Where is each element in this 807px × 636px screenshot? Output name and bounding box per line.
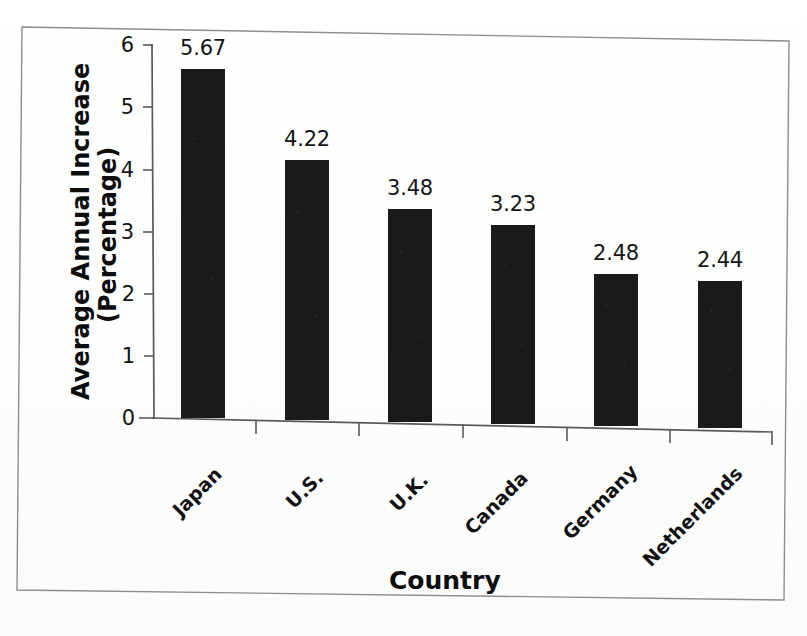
- ytick-label-0: 0: [101, 406, 135, 430]
- bar-value-label-us: 4.22: [257, 127, 357, 151]
- xtick-label-netherlands: Netherlands: [638, 462, 746, 570]
- y-axis-title: Average Annual Increase (Percentage): [68, 70, 122, 400]
- bar-value-label-uk: 3.48: [360, 176, 460, 200]
- bar-uk: [388, 209, 432, 422]
- bar-netherlands: [698, 281, 742, 428]
- bar-value-label-japan: 5.67: [153, 36, 253, 60]
- xtick-label-canada: Canada: [460, 467, 532, 539]
- y-axis-title-line1: Average Annual Increase: [68, 70, 95, 400]
- ytick-label-6: 6: [100, 33, 134, 57]
- x-axis-title: Country: [389, 566, 501, 595]
- bar-value-label-netherlands: 2.44: [670, 248, 770, 272]
- chart-screenshot: 6 5 4 3 2 1 0 Average Annual Increase (P…: [0, 0, 807, 636]
- bar-germany: [594, 274, 638, 426]
- bar-value-label-canada: 3.23: [463, 192, 563, 216]
- xtick-label-japan: Japan: [168, 463, 226, 521]
- xtick-label-uk: U.K.: [385, 468, 432, 515]
- xtick-label-us: U.S.: [281, 466, 327, 512]
- bar-us: [285, 160, 329, 420]
- bar-value-label-germany: 2.48: [566, 241, 666, 265]
- y-axis-title-line2: (Percentage): [95, 70, 122, 400]
- plot-area: 6 5 4 3 2 1 0 Average Annual Increase (P…: [0, 0, 807, 636]
- bar-japan: [181, 69, 225, 418]
- xtick-label-germany: Germany: [558, 460, 642, 544]
- bar-canada: [491, 225, 535, 424]
